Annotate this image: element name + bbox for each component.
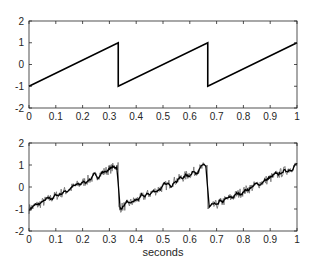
- x-tick-label: 1: [294, 234, 300, 245]
- x-tick-label: 0.3: [102, 111, 116, 122]
- y-tick-label: -2: [15, 226, 24, 237]
- x-tick-label: 0.6: [183, 234, 197, 245]
- x-tick-label: 0.4: [129, 111, 143, 122]
- top-axes: 00.10.20.30.40.50.60.70.80.91-2-1012: [15, 16, 300, 123]
- bottom-axes: 00.10.20.30.40.50.60.70.80.91-2-1012: [15, 138, 300, 246]
- y-tick-label: 1: [18, 37, 24, 48]
- noisy-signal-line: [29, 162, 297, 214]
- x-tick-label: 0.7: [210, 234, 224, 245]
- x-tick-label: 0.7: [210, 111, 224, 122]
- y-tick-label: 2: [18, 138, 24, 149]
- x-tick-label: 0.8: [236, 234, 250, 245]
- x-tick-label: 0.9: [263, 234, 277, 245]
- x-tick-label: 0.8: [236, 111, 250, 122]
- x-tick-label: 0.6: [183, 111, 197, 122]
- y-tick-label: -1: [15, 81, 24, 92]
- y-tick-label: -1: [15, 204, 24, 215]
- y-tick-label: 0: [18, 59, 24, 70]
- axes-box: [29, 143, 297, 231]
- x-tick-label: 0.2: [76, 234, 90, 245]
- x-tick-label: 0.2: [76, 111, 90, 122]
- x-tick-label: 0.1: [49, 111, 63, 122]
- x-axis-label: seconds: [143, 246, 184, 258]
- figure: 00.10.20.30.40.50.60.70.80.91-2-1012 00.…: [0, 0, 313, 269]
- x-tick-label: 0: [26, 234, 32, 245]
- filtered-signal-line: [29, 164, 297, 210]
- sawtooth-line: [29, 43, 297, 87]
- y-tick-label: 1: [18, 160, 24, 171]
- y-tick-label: 2: [18, 16, 24, 27]
- x-tick-label: 0: [26, 111, 32, 122]
- y-tick-label: 0: [18, 182, 24, 193]
- x-tick-label: 0.1: [49, 234, 63, 245]
- y-tick-label: -2: [15, 103, 24, 114]
- x-tick-label: 0.4: [129, 234, 143, 245]
- x-tick-label: 1: [294, 111, 300, 122]
- x-tick-label: 0.9: [263, 111, 277, 122]
- x-tick-label: 0.5: [156, 111, 170, 122]
- x-tick-label: 0.3: [102, 234, 116, 245]
- x-tick-label: 0.5: [156, 234, 170, 245]
